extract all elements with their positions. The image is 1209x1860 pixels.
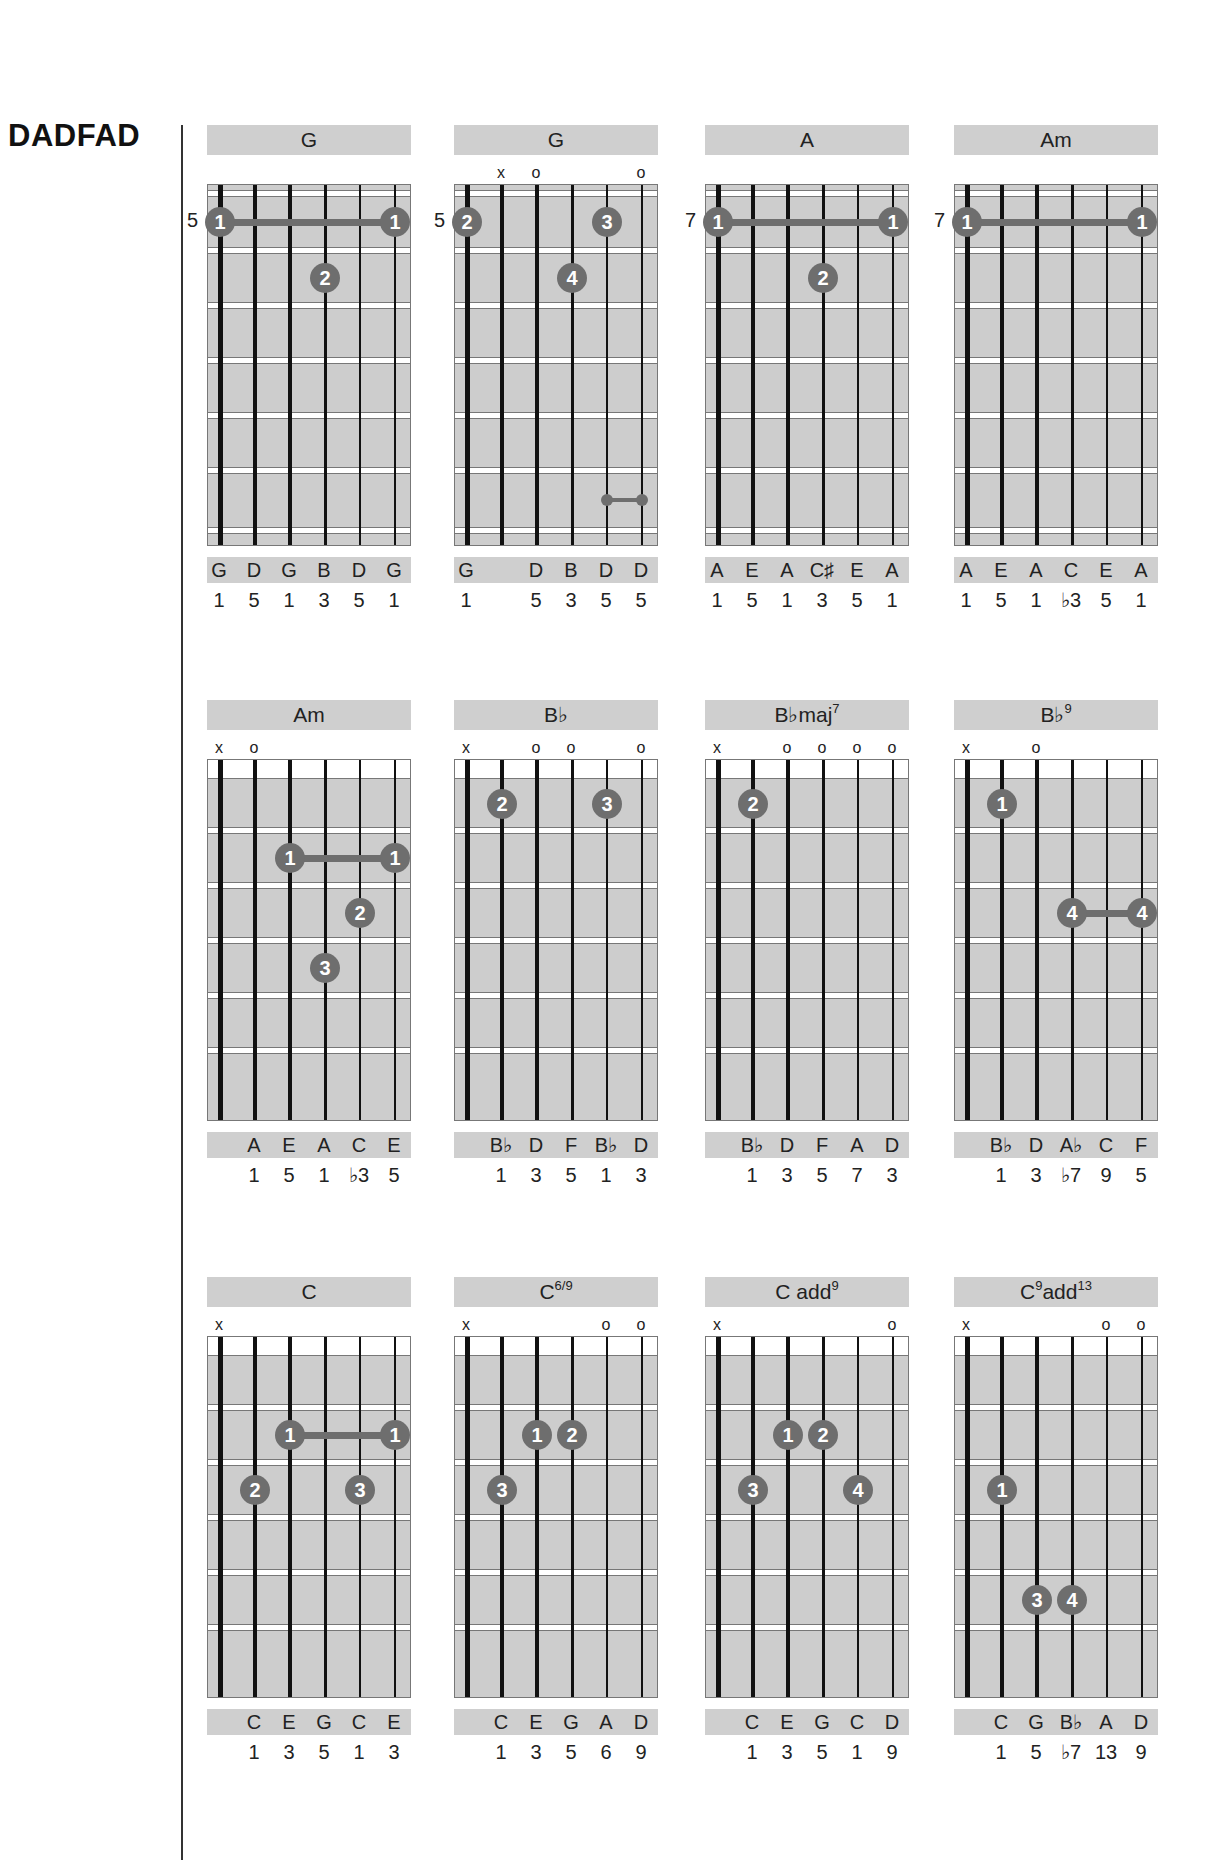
interval-degree: ♭3	[344, 1162, 374, 1188]
nut-area	[455, 1337, 657, 1356]
chord-name-text: B♭maj	[774, 703, 832, 726]
fret-line	[455, 827, 657, 834]
open-string-marker: o	[529, 738, 543, 758]
guitar-string	[359, 760, 361, 1120]
interval-degree: 5	[591, 587, 621, 613]
interval-degree: 5	[1091, 587, 1121, 613]
interval-degree: 5	[239, 587, 269, 613]
guitar-string	[218, 185, 223, 545]
fret-line	[208, 1404, 410, 1411]
muted-string-marker: x	[710, 1315, 724, 1335]
fret-line	[706, 937, 908, 944]
note-name: D	[877, 1132, 907, 1158]
chord-name-superscript: 7	[832, 701, 839, 716]
finger-dot: 3	[592, 207, 622, 237]
finger-dot: 2	[808, 1420, 838, 1450]
intervals-row: 13513	[207, 1739, 411, 1765]
interval-degree: 9	[1091, 1162, 1121, 1188]
interval-degree: 1	[772, 587, 802, 613]
interval-degree: 3	[626, 1162, 656, 1188]
fret-line	[455, 1624, 657, 1631]
note-name: A♭	[1056, 1132, 1086, 1158]
note-names-row: AEAC♯EA	[705, 557, 909, 583]
fretboard: 234	[454, 184, 658, 546]
note-names-row: B♭DFB♭D	[454, 1132, 658, 1158]
note-name: A	[1091, 1709, 1121, 1735]
fret-line	[955, 827, 1157, 834]
note-name: F	[556, 1132, 586, 1158]
note-name: D	[626, 1132, 656, 1158]
interval-degree: 1	[986, 1739, 1016, 1765]
interval-degree: 1	[1021, 587, 1051, 613]
fret-line	[955, 1459, 1157, 1466]
small-dot	[636, 494, 648, 506]
muted-string-marker: x	[959, 738, 973, 758]
guitar-string	[324, 1337, 327, 1697]
interval-degree: 3	[521, 1162, 551, 1188]
note-name: G	[1021, 1709, 1051, 1735]
string-markers: x	[207, 1315, 417, 1335]
note-name: E	[379, 1709, 409, 1735]
chord-name: A	[705, 125, 909, 155]
note-names-row: AEACE	[207, 1132, 411, 1158]
fret-line	[208, 467, 410, 474]
note-name: C	[344, 1132, 374, 1158]
guitar-string	[1106, 185, 1108, 545]
fret-line	[706, 1404, 908, 1411]
intervals-row: 13573	[705, 1162, 909, 1188]
interval-degree: 5	[1126, 1162, 1156, 1188]
guitar-string	[822, 760, 825, 1120]
intervals-row: 15♭7139	[954, 1739, 1158, 1765]
intervals-row: 13513	[454, 1162, 658, 1188]
note-name: G	[451, 557, 481, 583]
fret-line	[455, 412, 657, 419]
string-markers: xoo	[454, 1315, 664, 1335]
note-name: E	[1091, 557, 1121, 583]
fret-line	[706, 527, 908, 534]
interval-degree: 1	[842, 1739, 872, 1765]
chord-name: Am	[207, 700, 411, 730]
nut-area	[955, 760, 1157, 779]
open-string-marker: o	[634, 738, 648, 758]
guitar-string	[822, 185, 825, 545]
guitar-string	[500, 1337, 504, 1697]
fret-line	[455, 190, 657, 197]
note-name: C	[737, 1709, 767, 1735]
finger-dot: 3	[1022, 1585, 1052, 1615]
open-string-marker: o	[247, 738, 261, 758]
fret-line	[455, 357, 657, 364]
note-name: A	[702, 557, 732, 583]
interval-degree: 1	[486, 1739, 516, 1765]
intervals-row: 13519	[705, 1739, 909, 1765]
guitar-string	[288, 185, 292, 545]
guitar-string	[1035, 760, 1039, 1120]
guitar-string	[716, 760, 721, 1120]
interval-degree: 1	[344, 1739, 374, 1765]
chord-name-suffix: add	[1042, 1280, 1077, 1303]
fret-line	[706, 412, 908, 419]
fret-line	[706, 302, 908, 309]
finger-dot: 1	[205, 207, 235, 237]
fret-line	[706, 882, 908, 889]
interval-degree: 5	[521, 587, 551, 613]
fretboard: 1123	[207, 1336, 411, 1698]
note-name: A	[951, 557, 981, 583]
chord-name-text: B♭	[544, 703, 568, 726]
guitar-string	[1035, 185, 1039, 545]
note-name: E	[986, 557, 1016, 583]
note-name: D	[626, 1709, 656, 1735]
fret-line	[706, 190, 908, 197]
fret-line	[208, 1459, 410, 1466]
interval-degree: 1	[274, 587, 304, 613]
guitar-string	[857, 185, 859, 545]
fret-line	[208, 1624, 410, 1631]
interval-degree: 1	[877, 587, 907, 613]
chord-name-superscript: 6/9	[555, 1278, 573, 1293]
nut-area	[706, 760, 908, 779]
fret-line	[455, 1514, 657, 1521]
guitar-string	[535, 1337, 539, 1697]
guitar-string	[892, 760, 894, 1120]
guitar-string	[965, 760, 970, 1120]
start-fret-label: 7	[685, 209, 696, 232]
string-markers	[954, 163, 1164, 183]
